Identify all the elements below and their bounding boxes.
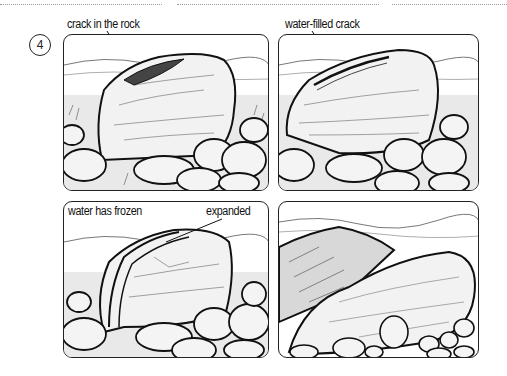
panel-1-label: crack in the rock [67,17,139,31]
split-boulder-illustration [279,202,479,358]
panel-3-label: water has frozen [68,204,142,218]
step-number: 4 [37,38,44,52]
dotted-rule-3 [392,4,507,5]
panel-3-leader-line [164,218,224,244]
panel-water-filled-crack [278,34,479,191]
dotted-rule-2 [177,4,379,5]
panel-2-label: water-filled crack [285,17,359,31]
dotted-rule-1 [0,4,162,5]
boulder-water-filled-illustration [279,35,479,191]
step-number-badge: 4 [29,34,51,56]
panel-water-frozen: water has frozen expanded [63,201,269,358]
panel-3-label-expanded: expanded [206,204,250,218]
panel-rock-split [278,201,479,358]
panel-crack-in-rock [63,34,269,191]
boulder-with-crack-illustration [64,35,269,191]
